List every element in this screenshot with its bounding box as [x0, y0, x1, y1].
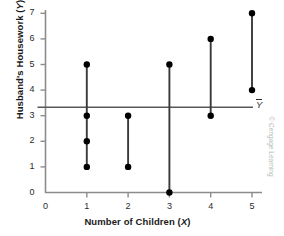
data-point [84, 113, 90, 119]
x-tick-label: 0 [39, 201, 53, 211]
x-tick-label: 1 [80, 201, 94, 211]
data-point [208, 36, 214, 42]
data-point [249, 10, 255, 16]
x-tick-label: 4 [204, 201, 218, 211]
y-tick-label: 4 [19, 84, 35, 94]
data-point [166, 189, 172, 195]
data-point [249, 87, 255, 93]
y-tick-label: 2 [19, 135, 35, 145]
data-point [208, 113, 214, 119]
axes-group [45, 10, 262, 193]
copyright-credit: © Cengage Learning [268, 117, 275, 195]
y-tick-label: 6 [19, 33, 35, 43]
data-point [125, 113, 131, 119]
y-tick-label: 5 [19, 59, 35, 69]
scatterplot-figure: Husband's Housework (Y) Number of Childr… [0, 0, 284, 236]
y-tick-label: 7 [19, 7, 35, 17]
y-tick-label: 1 [19, 161, 35, 171]
x-tick-label: 5 [245, 201, 259, 211]
data-point [84, 61, 90, 67]
data-point [166, 61, 172, 67]
data-point [84, 138, 90, 144]
y-tick-label: 0 [19, 187, 35, 197]
y-tick-label: 3 [19, 110, 35, 120]
y-bar-symbol: Y [256, 99, 262, 110]
x-tick-label: 2 [121, 201, 135, 211]
x-tick-label: 3 [162, 201, 176, 211]
data-point [125, 164, 131, 170]
point-connectors [87, 13, 252, 192]
mean-line-label: Y [256, 99, 262, 110]
data-point [84, 164, 90, 170]
